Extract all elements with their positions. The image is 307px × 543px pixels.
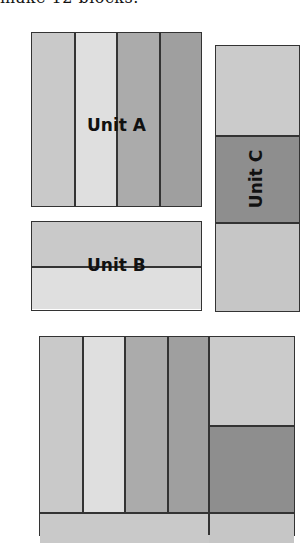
block-right-middle (209, 426, 294, 513)
unit-c: Unit C (215, 45, 300, 312)
divider (159, 33, 161, 206)
block-bottom-right (209, 513, 294, 543)
divider (40, 512, 294, 514)
unit-a-strip-1 (32, 33, 75, 206)
unit-a-label: Unit A (87, 115, 146, 135)
block-column-1 (40, 337, 83, 513)
unit-a-strip-4 (160, 33, 201, 206)
assembled-block (39, 336, 295, 536)
block-right-top (209, 337, 294, 426)
unit-c-label: Unit C (246, 150, 266, 208)
unit-b-label: Unit B (87, 255, 146, 275)
unit-b: Unit B (31, 221, 202, 311)
block-column-2 (83, 337, 125, 513)
divider (216, 135, 299, 137)
divider (216, 222, 299, 224)
unit-a: Unit A (31, 32, 202, 207)
divider (208, 337, 210, 535)
block-bottom-left (40, 513, 209, 543)
divider (124, 337, 126, 513)
divider (74, 33, 76, 206)
block-column-3 (125, 337, 168, 513)
unit-c-section-bottom (216, 223, 299, 311)
block-column-4 (168, 337, 209, 513)
divider (167, 337, 169, 513)
divider (82, 337, 84, 513)
instruction-caption: make 12 blocks. (0, 0, 139, 7)
unit-c-section-top (216, 46, 299, 135)
divider (209, 425, 294, 427)
